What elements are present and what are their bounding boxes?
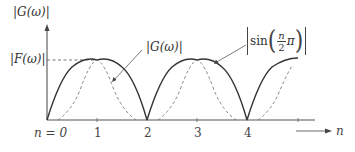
pointer-dashed-label [113,50,142,81]
fraction: n 2 [277,30,285,53]
dashed-curve-label: |G(ω)| [146,40,183,54]
tick-label-3: 3 [194,126,202,140]
abs-bar-left [247,27,248,55]
tick-label-2: 2 [144,126,152,140]
paren-left: ( [268,28,277,54]
tick-label-0: n = 0 [34,126,67,140]
solid-sin-curve [47,58,298,120]
abs-bar-right [305,27,306,55]
y-axis-label: |G(ω)| [13,5,50,19]
pointer-solid-label [215,45,246,63]
level-label: |F(ω)| [10,52,46,66]
fraction-numerator: n [277,30,285,42]
tick-label-4: 4 [244,126,252,140]
sin-text: sin [250,34,268,48]
solid-curve-label: sin ( n 2 π ) [247,26,306,56]
y-axis-arrow-icon [45,24,50,31]
tick-label-1: 1 [94,126,102,140]
dashed-g-curve [58,60,292,120]
n-direction-arrow-icon [325,129,332,134]
x-axis-label: n [336,124,344,138]
fraction-denominator: 2 [278,42,284,53]
pi-symbol: π [287,34,295,48]
paren-right: ) [295,28,304,54]
